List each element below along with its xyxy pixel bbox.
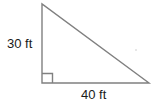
vertical-leg-label: 30 ft — [7, 37, 32, 50]
right-angle-icon — [42, 74, 53, 84]
triangle-figure: 30 ft 40 ft — [0, 0, 155, 110]
triangle-shape — [42, 4, 149, 83]
faint-artifact-dot — [135, 49, 137, 51]
horizontal-leg-label: 40 ft — [81, 88, 106, 101]
triangle-drawing — [0, 0, 155, 110]
